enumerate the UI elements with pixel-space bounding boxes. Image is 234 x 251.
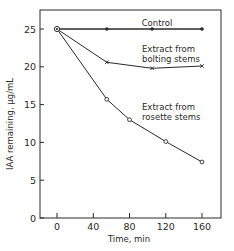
x-tick-80: 80 (123, 221, 135, 232)
rosette-point-icon (164, 140, 168, 144)
rosette-point-icon (200, 160, 204, 164)
x-tick-120: 120 (157, 221, 175, 232)
annotation-control: Control (142, 18, 173, 28)
y-tick-10: 10 (24, 137, 36, 148)
control-point-icon (105, 27, 109, 31)
series-control (57, 27, 204, 31)
y-tick-25: 25 (24, 24, 36, 35)
rosette-point-icon (128, 118, 132, 122)
y-axis: 0 5 10 15 20 25 (24, 24, 44, 224)
x-axis-title: Time, min (107, 234, 150, 244)
annotation-bolting-line1: Extract from (142, 44, 195, 54)
annotation-rosette-line2: rosette stems (142, 112, 201, 122)
rosette-point-icon (105, 97, 109, 101)
y-axis-title: IAA remaining, μg/mL (5, 78, 15, 170)
x-tick-40: 40 (87, 221, 99, 232)
y-tick-20: 20 (24, 61, 36, 72)
annotation-rosette-line1: Extract from (142, 102, 195, 112)
chart: 0 5 10 15 20 25 0 40 80 120 160 Time, mi… (0, 0, 234, 251)
x-axis: 0 40 80 120 160 (54, 213, 211, 232)
y-tick-0: 0 (30, 213, 36, 224)
control-point-icon (200, 27, 204, 31)
x-tick-160: 160 (193, 221, 211, 232)
annotation-bolting-line2: bolting stems (142, 54, 200, 64)
x-tick-0: 0 (54, 221, 60, 232)
y-tick-5: 5 (30, 175, 36, 186)
y-tick-15: 15 (24, 99, 36, 110)
